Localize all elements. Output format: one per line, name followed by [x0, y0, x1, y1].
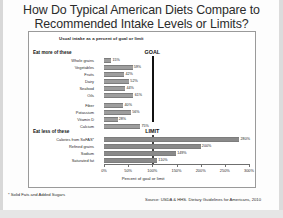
chart-bar-row: Calories from SoFAS*280%: [29, 137, 249, 142]
bar-category-label: Saturated fat: [72, 158, 94, 163]
bar-category-label: Vitamin D: [77, 117, 94, 122]
limit-reference-label: LIMIT: [145, 128, 159, 134]
chart-bar-row: Whole grains15%: [29, 58, 249, 63]
chart-bar: [104, 110, 131, 115]
bar-category-label: Whole grains: [71, 58, 94, 63]
bar-category-label: Seafood: [80, 86, 95, 91]
x-axis-tick-label: 200%: [196, 168, 206, 173]
x-axis-tick-label: 150%: [172, 168, 182, 173]
scan-edge-left: [0, 0, 3, 218]
bar-category-label: Dairy: [85, 79, 94, 84]
chart-bar: [104, 58, 111, 63]
chart-bar-row: Vitamin D28%: [29, 117, 249, 122]
chart-bar: [104, 124, 140, 129]
bar-category-label: Fruits: [84, 72, 94, 77]
bar-value-label: 110%: [158, 158, 167, 163]
bar-category-label: Fiber: [85, 103, 94, 108]
chart-bar: [104, 93, 133, 98]
x-axis-tick: [201, 164, 202, 167]
page-title-line-1: How Do Typical American Diets Compare to: [6, 3, 277, 17]
chart-panel: Usual intake as a percent of goal or lim…: [28, 31, 256, 188]
chart-bar-row: Vegetables59%: [29, 65, 249, 70]
scan-edge-right: [279, 0, 283, 218]
x-axis-tick-label: 300%: [244, 168, 254, 173]
x-axis-tick-label: 50%: [124, 168, 132, 173]
x-axis-tick: [104, 164, 105, 167]
chart-bar-row: Calcium75%: [29, 124, 249, 129]
bar-category-label: Potassium: [76, 110, 94, 115]
page-title: How Do Typical American Diets Compare to…: [6, 3, 277, 31]
x-axis-tick: [152, 164, 153, 167]
footnote-sofas: * Solid Fats and Added Sugars: [8, 192, 65, 197]
chart-bar: [104, 117, 118, 122]
goal-reference-label: GOAL: [145, 49, 161, 55]
bar-value-label: 40%: [125, 103, 132, 108]
chart-bar: [104, 79, 129, 84]
x-axis-label: Percent of goal or limit: [29, 176, 257, 181]
chart-bar-row: Fruits42%: [29, 72, 249, 77]
bar-value-label: 44%: [126, 86, 133, 91]
screenshot-page: How Do Typical American Diets Compare to…: [0, 0, 283, 218]
bar-value-label: 149%: [177, 151, 186, 156]
x-axis-tick-label: 0%: [101, 168, 107, 173]
bar-category-label: Calories from SoFAS*: [56, 137, 94, 142]
bar-value-label: 75%: [141, 124, 148, 129]
chart-bar: [104, 103, 123, 108]
chart-bar-row: Fiber40%: [29, 103, 249, 108]
chart-bar-row: Oils61%: [29, 93, 249, 98]
chart-bar: [104, 72, 124, 77]
source-citation: Source: USDA & HHS. Dietary Guidelines f…: [145, 197, 261, 202]
x-axis-tick: [128, 164, 129, 167]
scan-edge-bottom: [0, 210, 283, 218]
chart-bar: [104, 86, 125, 91]
bar-category-label: Sodium: [81, 151, 94, 156]
x-axis-tick-label: 250%: [220, 168, 230, 173]
chart-bar-row: Saturated fat110%: [29, 158, 249, 163]
bar-value-label: 200%: [202, 144, 211, 149]
chart-bar-row: Refined grains200%: [29, 144, 249, 149]
bar-value-label: 15%: [112, 58, 119, 63]
bar-value-label: 52%: [130, 79, 137, 84]
bar-category-label: Refined grains: [69, 144, 94, 149]
group-label-eat-more: Eat more of these: [33, 50, 72, 55]
bar-value-label: 59%: [134, 65, 141, 70]
group-label-eat-less: Eat less of these: [33, 129, 69, 134]
chart-bar: [104, 158, 157, 163]
chart-bar: [104, 144, 201, 149]
x-axis-tick-label: 100%: [147, 168, 157, 173]
bar-category-label: Calcium: [80, 124, 94, 129]
x-axis-tick: [249, 164, 250, 167]
bar-category-label: Oils: [87, 93, 94, 98]
x-axis-tick: [177, 164, 178, 167]
chart-bar-row: Dairy52%: [29, 79, 249, 84]
x-axis-tick: [225, 164, 226, 167]
bar-value-label: 56%: [132, 110, 139, 115]
chart-bar: [104, 151, 176, 156]
bar-value-label: 61%: [135, 93, 142, 98]
chart-plot-area: Eat more of these Eat less of these GOAL…: [29, 32, 257, 189]
bar-value-label: 42%: [126, 72, 133, 77]
chart-bar-row: Sodium149%: [29, 151, 249, 156]
bar-value-label: 28%: [119, 117, 126, 122]
bar-value-label: 280%: [241, 137, 250, 142]
bar-category-label: Vegetables: [75, 65, 94, 70]
chart-bar-row: Potassium56%: [29, 110, 249, 115]
chart-bar: [104, 65, 133, 70]
chart-bar: [104, 137, 239, 142]
chart-bar-row: Seafood44%: [29, 86, 249, 91]
page-title-line-2: Recommended Intake Levels or Limits?: [6, 17, 277, 31]
